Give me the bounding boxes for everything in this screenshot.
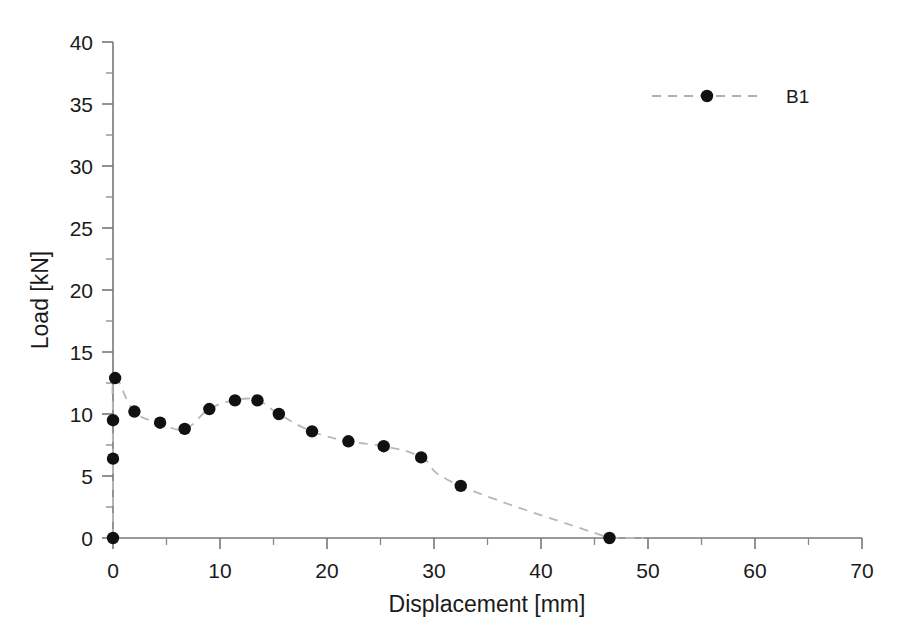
- y-tick-label: 30: [70, 155, 93, 178]
- data-point-marker: [415, 451, 427, 463]
- data-point-marker: [128, 405, 140, 417]
- x-tick-label: 10: [208, 559, 231, 582]
- data-point-marker: [342, 435, 354, 447]
- data-point-marker: [203, 403, 215, 415]
- x-tick-label: 0: [107, 559, 119, 582]
- y-tick-label: 5: [81, 465, 93, 488]
- y-tick-label: 25: [70, 217, 93, 240]
- data-point-marker: [378, 440, 390, 452]
- data-point-marker: [107, 532, 119, 544]
- x-tick-label: 60: [743, 559, 766, 582]
- y-tick-label: 20: [70, 279, 93, 302]
- y-tick-label: 0: [81, 527, 93, 550]
- legend-marker-sample: [701, 90, 713, 102]
- data-point-marker: [107, 414, 119, 426]
- legend-label-b1: B1: [786, 86, 809, 107]
- data-point-marker: [273, 408, 285, 420]
- x-tick-label: 20: [315, 559, 338, 582]
- data-point-marker: [251, 394, 263, 406]
- y-tick-label: 15: [70, 341, 93, 364]
- y-tick-label: 35: [70, 93, 93, 116]
- data-point-marker: [178, 423, 190, 435]
- y-tick-label: 40: [70, 31, 93, 54]
- data-point-marker: [107, 452, 119, 464]
- data-point-marker: [455, 480, 467, 492]
- x-tick-label: 30: [422, 559, 445, 582]
- data-point-marker: [603, 532, 615, 544]
- data-point-marker: [306, 425, 318, 437]
- y-tick-label: 10: [70, 403, 93, 426]
- data-point-marker: [154, 416, 166, 428]
- load-displacement-chart: 010203040506070 0510152025303540 B1 Disp…: [0, 0, 911, 643]
- x-tick-label: 50: [636, 559, 659, 582]
- data-point-marker: [229, 394, 241, 406]
- x-axis-title: Displacement [mm]: [389, 591, 586, 617]
- x-tick-label: 70: [850, 559, 873, 582]
- data-point-marker: [109, 372, 121, 384]
- chart-background: [0, 0, 911, 643]
- y-axis-title: Load [kN]: [27, 251, 53, 349]
- x-tick-label: 40: [529, 559, 552, 582]
- chart-container: 010203040506070 0510152025303540 B1 Disp…: [0, 0, 911, 643]
